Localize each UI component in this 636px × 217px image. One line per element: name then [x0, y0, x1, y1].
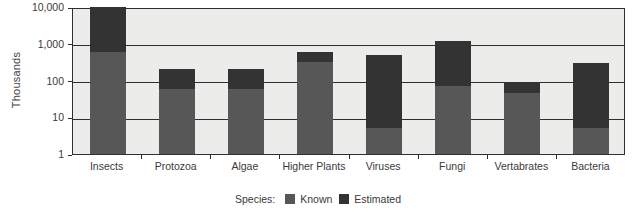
- legend-swatch-known: [285, 194, 295, 204]
- bar-segment-estimated: [504, 82, 540, 93]
- legend-label-known: Known: [300, 193, 332, 205]
- bar-protozoa: [159, 69, 195, 154]
- x-tick-label: Protozoa: [155, 160, 197, 172]
- bar-segment-estimated: [90, 7, 126, 52]
- bar-segment-estimated: [159, 69, 195, 88]
- bar-algae: [228, 69, 264, 154]
- gridline: [73, 45, 624, 46]
- x-tick-mark: [279, 155, 280, 159]
- y-tick-label: 1: [0, 148, 64, 160]
- bar-segment-estimated: [366, 55, 402, 129]
- gridline: [73, 119, 624, 120]
- x-tick-mark: [556, 155, 557, 159]
- plot-area: [72, 8, 625, 155]
- y-tick-label: 10: [0, 111, 64, 123]
- bar-segment-estimated: [435, 41, 471, 86]
- bar-higher-plants: [297, 52, 333, 154]
- legend-label-estimated: Estimated: [354, 193, 401, 205]
- x-tick-mark: [418, 155, 419, 159]
- x-tick-label: Algae: [231, 160, 258, 172]
- legend-swatch-estimated: [339, 194, 349, 204]
- bar-segment-known: [573, 128, 609, 154]
- chart-legend: Species: Known Estimated: [0, 193, 636, 205]
- x-tick-mark: [349, 155, 350, 159]
- x-tick-label: Vertabrates: [494, 160, 548, 172]
- bar-segment-known: [297, 62, 333, 154]
- y-axis-ticks: 10,0001,000100101: [0, 0, 68, 217]
- x-tick-mark: [210, 155, 211, 159]
- x-tick-label: Higher Plants: [282, 160, 345, 172]
- bar-segment-estimated: [573, 63, 609, 128]
- y-tick-label: 1,000: [0, 38, 64, 50]
- bar-viruses: [366, 55, 402, 154]
- bar-segment-known: [435, 86, 471, 154]
- y-tick-label: 100: [0, 75, 64, 87]
- bar-vertabrates: [504, 82, 540, 154]
- x-tick-label: Fungi: [439, 160, 465, 172]
- bar-segment-known: [90, 52, 126, 154]
- bar-segment-estimated: [297, 52, 333, 62]
- x-tick-mark: [487, 155, 488, 159]
- bar-insects: [90, 7, 126, 154]
- legend-item-estimated: Estimated: [339, 193, 401, 205]
- gridline: [73, 82, 624, 83]
- x-tick-label: Insects: [90, 160, 123, 172]
- bar-bacteria: [573, 63, 609, 154]
- legend-title: Species:: [235, 193, 275, 205]
- x-tick-label: Bacteria: [571, 160, 610, 172]
- bar-fungi: [435, 41, 471, 154]
- y-tick-label: 10,000: [0, 1, 64, 13]
- legend-item-known: Known: [285, 193, 332, 205]
- x-tick-label: Viruses: [366, 160, 401, 172]
- bar-segment-known: [228, 89, 264, 154]
- bar-segment-estimated: [228, 69, 264, 88]
- bar-segment-known: [504, 93, 540, 154]
- species-diversity-chart: Thousands 10,0001,000100101 InsectsProto…: [0, 0, 636, 217]
- x-tick-mark: [141, 155, 142, 159]
- bar-segment-known: [366, 128, 402, 154]
- bar-segment-known: [159, 89, 195, 154]
